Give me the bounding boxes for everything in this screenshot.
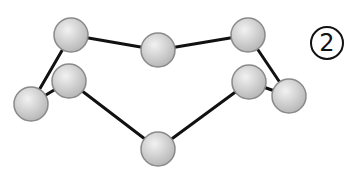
atom-B — [141, 33, 175, 67]
figure-number-label: 2 — [310, 26, 344, 60]
atoms-group — [14, 18, 306, 166]
molecule-ring-diagram — [0, 0, 349, 169]
atom-F — [141, 132, 175, 166]
